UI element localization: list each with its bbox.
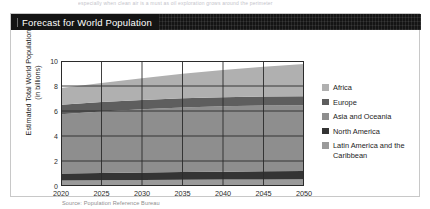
y-axis-title: Estimated Total World Population (in bil… bbox=[25, 24, 42, 142]
chart-legend: AfricaEuropeAsia and OceaniaNorth Americ… bbox=[322, 83, 418, 165]
x-tick-label: 2030 bbox=[134, 189, 150, 198]
legend-label: North America bbox=[333, 127, 380, 136]
title-rule bbox=[17, 18, 18, 27]
legend-label: Latin America and the Caribbean bbox=[333, 141, 418, 159]
x-tick-label: 2045 bbox=[255, 189, 271, 198]
y-tick-label: 4 bbox=[54, 133, 58, 140]
legend-item: North America bbox=[322, 127, 418, 136]
figure-header-bar: Forecast for World Population bbox=[11, 14, 421, 30]
legend-label: Asia and Oceania bbox=[333, 112, 391, 121]
y-tick-label: 10 bbox=[50, 58, 58, 65]
y-tick-label: 2 bbox=[54, 158, 58, 165]
legend-swatch bbox=[322, 128, 329, 135]
legend-item: Africa bbox=[322, 83, 418, 92]
legend-swatch bbox=[322, 142, 329, 149]
x-tick-label: 2050 bbox=[296, 189, 312, 198]
plot-region: 0246810 2020202520302035204020452050 bbox=[61, 61, 304, 186]
stacked-area-chart bbox=[61, 61, 304, 186]
legend-item: Europe bbox=[322, 98, 418, 107]
y-tick-label: 6 bbox=[54, 108, 58, 115]
legend-swatch bbox=[322, 84, 329, 91]
page-bleed-text: especially when clean air is a must as o… bbox=[78, 0, 423, 7]
x-tick-label: 2025 bbox=[93, 189, 109, 198]
figure-card: Forecast for World Population Estimated … bbox=[10, 13, 420, 197]
legend-item: Asia and Oceania bbox=[322, 112, 418, 121]
legend-swatch bbox=[322, 113, 329, 120]
legend-item: Latin America and the Caribbean bbox=[322, 141, 418, 159]
x-tick-label: 2020 bbox=[53, 189, 69, 198]
header-texture bbox=[159, 14, 421, 30]
y-axis-title-line2: (in billions) bbox=[34, 24, 43, 142]
x-tick-label: 2035 bbox=[174, 189, 190, 198]
legend-label: Africa bbox=[333, 83, 352, 92]
legend-swatch bbox=[322, 99, 329, 106]
x-tick-label: 2040 bbox=[215, 189, 231, 198]
legend-label: Europe bbox=[333, 98, 357, 107]
y-tick-label: 8 bbox=[54, 83, 58, 90]
chart-area: Estimated Total World Population (in bil… bbox=[11, 30, 421, 197]
source-note: Source: Population Reference Bureau bbox=[62, 200, 160, 206]
